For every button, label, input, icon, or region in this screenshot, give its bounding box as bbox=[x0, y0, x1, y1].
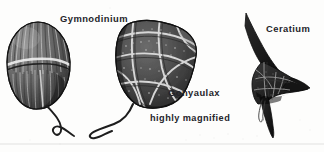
illustration-figure: Gymnodinium Gonyaulax Ceratium highly ma… bbox=[0, 0, 324, 152]
label-gymnodinium: Gymnodinium bbox=[60, 14, 128, 23]
label-ceratium: Ceratium bbox=[266, 24, 310, 33]
label-gonyaulax: Gonyaulax bbox=[168, 88, 220, 97]
label-magnification-note: highly magnified bbox=[150, 114, 230, 123]
gymnodinium-drawing bbox=[4, 20, 74, 136]
gymnodinium-flagellum bbox=[47, 106, 74, 136]
gonyaulax-flagellum bbox=[90, 104, 133, 138]
